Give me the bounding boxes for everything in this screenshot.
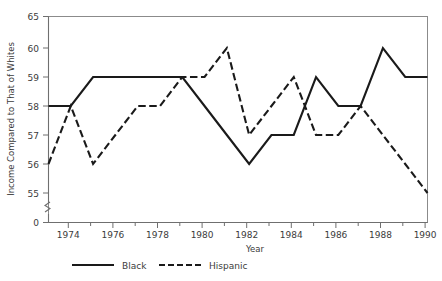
y-tick-label-58: 58 bbox=[28, 102, 40, 112]
x-tick-label-1980: 1980 bbox=[191, 230, 214, 240]
y-tick-label-59: 59 bbox=[28, 73, 40, 83]
legend-label-hispanic: Hispanic bbox=[209, 261, 247, 271]
x-axis-title: Year bbox=[245, 244, 265, 254]
x-tick-label-1976: 1976 bbox=[101, 230, 124, 240]
series-line-hispanic bbox=[49, 48, 428, 193]
chart-container: 65 60 59 58 57 56 55 0 1974 bbox=[0, 0, 442, 281]
x-tick-label-1986: 1986 bbox=[324, 230, 347, 240]
axis-break-icon bbox=[45, 202, 50, 212]
x-tick-label-1988: 1988 bbox=[369, 230, 392, 240]
y-tick-label-55: 55 bbox=[28, 189, 39, 199]
y-tick-label-0: 0 bbox=[33, 218, 39, 228]
x-tick-label-1978: 1978 bbox=[146, 230, 169, 240]
y-tick-label-57: 57 bbox=[28, 131, 39, 141]
y-axis-title: Income Compared to That of Whites bbox=[6, 42, 16, 196]
y-tick-label-56: 56 bbox=[28, 160, 40, 170]
y-tick-label-60: 60 bbox=[28, 44, 40, 54]
y-tick-group bbox=[43, 17, 49, 223]
x-tick-group bbox=[68, 223, 425, 229]
plot-frame bbox=[49, 17, 428, 223]
legend: Black Hispanic bbox=[72, 261, 247, 271]
x-tick-label-1990: 1990 bbox=[414, 230, 437, 240]
y-tick-label-65: 65 bbox=[28, 12, 39, 22]
line-chart: 65 60 59 58 57 56 55 0 1974 bbox=[0, 0, 442, 281]
x-tick-label-1974: 1974 bbox=[57, 230, 80, 240]
x-tick-label-1982: 1982 bbox=[235, 230, 258, 240]
x-tick-label-1984: 1984 bbox=[280, 230, 303, 240]
legend-label-black: Black bbox=[122, 261, 147, 271]
